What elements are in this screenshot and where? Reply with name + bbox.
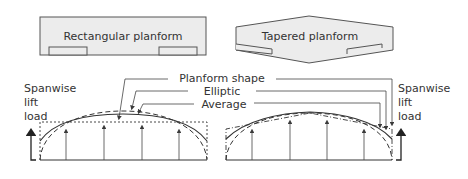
rectangular-planform: Rectangular planform: [40, 17, 206, 55]
legend: Planform shape Elliptic Average: [119, 72, 392, 128]
right-axis-label-line3: load: [398, 110, 422, 123]
right-axis-label-line1: Spanwise: [398, 82, 450, 95]
up-arrow-icon: [396, 132, 401, 160]
average-curve: [40, 122, 207, 160]
lift-distribution-diagram: Rectangular planform Tapered planform Pl…: [0, 0, 468, 179]
right-aileron: [159, 47, 197, 55]
left-axis-label-line3: load: [24, 110, 48, 123]
rectangular-lift-distribution: [40, 111, 207, 160]
planform-shape-curve: [40, 114, 207, 141]
average-curve: [226, 113, 392, 160]
left-axis-label-line2: lift: [24, 96, 39, 109]
right-axis: Spanwise lift load: [396, 82, 450, 160]
legend-elliptic: Elliptic: [204, 85, 241, 98]
leader-planform-shape-left: [119, 79, 168, 118]
legend-planform-shape: Planform shape: [179, 72, 265, 85]
tapered-lift-distribution: [226, 112, 392, 160]
tapered-planform: Tapered planform: [234, 16, 393, 63]
leader-elliptic-left: [132, 91, 188, 108]
elliptic-curve: [40, 111, 207, 160]
rectangular-planform-label: Rectangular planform: [63, 30, 182, 43]
elliptic-curve: [226, 113, 392, 160]
left-axis-label-line1: Spanwise: [24, 82, 76, 95]
tapered-planform-label: Tapered planform: [261, 30, 358, 43]
leader-average-left: [139, 104, 194, 112]
right-axis-label-line2: lift: [398, 96, 413, 109]
up-arrow-icon: [31, 132, 36, 160]
left-aileron: [49, 47, 87, 55]
legend-average: Average: [201, 98, 246, 111]
